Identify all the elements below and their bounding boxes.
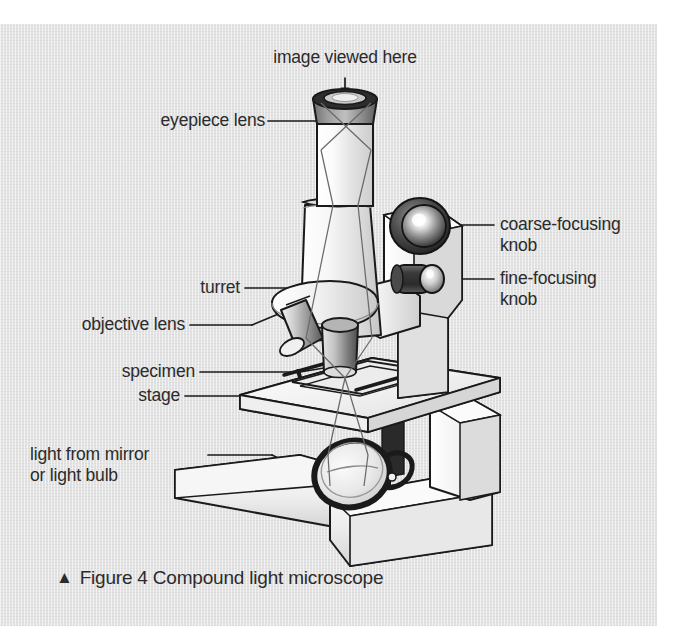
label-stage: stage [60, 385, 180, 406]
label-coarse-focusing-knob: coarse-focusing knob [500, 214, 675, 256]
label-light-source: light from mirror or light bulb [30, 444, 230, 486]
base-rear-pillar-side [460, 415, 500, 500]
figure-caption: ▲Figure 4 Compound light microscope [56, 566, 383, 590]
fine-focusing-knob-highlight [426, 270, 434, 279]
body-tube-upper [317, 122, 373, 206]
coarse-focusing-knob-highlight [412, 214, 426, 227]
label-objective-lens: objective lens [40, 314, 185, 335]
triangle-marker-icon: ▲ [56, 566, 73, 590]
label-eyepiece-lens: eyepiece lens [90, 110, 265, 131]
figure-container: image viewed here eyepiece lens coarse-f… [0, 0, 683, 638]
objective-lens-active-collar [322, 318, 358, 332]
body-tube-upper-shell [317, 122, 373, 206]
label-image-viewed-here: image viewed here [253, 47, 437, 68]
fine-focusing-knob-back [391, 265, 403, 293]
focusing-knobs [390, 198, 450, 293]
fine-focusing-knob-cap [420, 265, 444, 293]
stage-clip-tab [298, 371, 300, 377]
coarse-focusing-knob-inner [402, 205, 446, 247]
label-fine-focusing-knob: fine-focusing knob [500, 268, 675, 310]
mirror-pivot [388, 473, 396, 481]
label-turret: turret [80, 277, 240, 298]
eyepiece-aperture-inner [332, 94, 358, 102]
figure-caption-text: Figure 4 Compound light microscope [80, 567, 384, 588]
label-specimen: specimen [60, 361, 195, 382]
